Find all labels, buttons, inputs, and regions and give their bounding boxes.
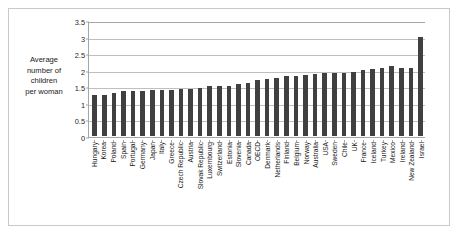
x-label-slot: Luxembourg bbox=[205, 140, 215, 220]
bar-slot bbox=[282, 22, 292, 136]
y-tick-mark bbox=[86, 88, 89, 89]
bar-slot bbox=[339, 22, 349, 136]
x-label-slot: Belgium bbox=[291, 140, 301, 220]
x-label-slot: Iceland bbox=[368, 140, 378, 220]
bar bbox=[274, 78, 279, 136]
x-label-slot: Finland bbox=[282, 140, 292, 220]
x-tick-label: Luxembourg bbox=[206, 142, 213, 179]
x-label-slot: Turkey bbox=[378, 140, 388, 220]
bar-slot bbox=[349, 22, 359, 136]
x-label-slot: Austria bbox=[185, 140, 195, 220]
bar-slot bbox=[358, 22, 368, 136]
x-label-slot: Slovenia bbox=[233, 140, 243, 220]
bar-slot bbox=[119, 22, 129, 136]
bar-slot bbox=[329, 22, 339, 136]
bar bbox=[265, 79, 270, 136]
y-tick-label: 1.5 bbox=[75, 84, 85, 93]
x-axis-labels: HungaryKoreaPolandSpainPortugalGermanyJa… bbox=[89, 140, 426, 220]
y-axis-title-line-2: number of bbox=[13, 66, 75, 77]
y-tick-mark bbox=[86, 22, 89, 23]
bar bbox=[131, 91, 136, 136]
x-label-slot: Czech Republic bbox=[176, 140, 186, 220]
bar bbox=[112, 93, 117, 136]
x-label-slot: Switzerland bbox=[214, 140, 224, 220]
bar bbox=[102, 95, 107, 136]
y-tick-label: 0.5 bbox=[75, 117, 85, 126]
x-tick-label: Denmark bbox=[264, 142, 271, 169]
bar bbox=[217, 86, 222, 136]
x-tick-label: Germany bbox=[138, 142, 145, 169]
bar-slot bbox=[195, 22, 205, 136]
y-tick-mark bbox=[86, 104, 89, 105]
x-tick-label: Spain bbox=[119, 142, 126, 159]
x-label-slot: Italy bbox=[156, 140, 166, 220]
bar-slot bbox=[205, 22, 215, 136]
bar bbox=[284, 76, 289, 136]
bar bbox=[303, 75, 308, 136]
x-label-slot: Denmark bbox=[262, 140, 272, 220]
x-tick-label: Switzerland bbox=[215, 142, 222, 176]
bar bbox=[160, 90, 165, 136]
bar bbox=[351, 72, 356, 136]
y-axis-title: Average number of children per woman bbox=[13, 55, 75, 97]
x-tick-label: Greece bbox=[167, 142, 174, 164]
x-tick-label: Hungary bbox=[90, 142, 97, 167]
x-label-slot: Poland bbox=[108, 140, 118, 220]
bar-slot bbox=[224, 22, 234, 136]
x-tick-label: New Zealand bbox=[408, 142, 415, 181]
bar-slot bbox=[320, 22, 330, 136]
bar-slot bbox=[90, 22, 100, 136]
x-label-slot: Spain bbox=[118, 140, 128, 220]
bar-slot bbox=[215, 22, 225, 136]
bar bbox=[361, 70, 366, 136]
bar-slot bbox=[186, 22, 196, 136]
x-tick-label: OECD bbox=[254, 142, 261, 161]
x-tick-label: Netherlands bbox=[273, 142, 280, 178]
bar bbox=[236, 84, 241, 136]
x-label-slot: Korea bbox=[99, 140, 109, 220]
bar-slot bbox=[387, 22, 397, 136]
bar-slot bbox=[243, 22, 253, 136]
x-label-slot: Israel bbox=[416, 140, 426, 220]
bar-slot bbox=[377, 22, 387, 136]
bar-slot bbox=[310, 22, 320, 136]
x-label-slot: Greece bbox=[166, 140, 176, 220]
x-label-slot: UK bbox=[349, 140, 359, 220]
y-tick-mark bbox=[86, 121, 89, 122]
y-tick-label: 2.5 bbox=[75, 51, 85, 60]
bar-slot bbox=[253, 22, 263, 136]
bar-series bbox=[90, 22, 425, 136]
bar-slot bbox=[128, 22, 138, 136]
bar bbox=[150, 90, 155, 136]
x-tick-label: Sweden bbox=[331, 142, 338, 166]
bar bbox=[198, 88, 203, 136]
x-tick-label: Czech Republic bbox=[177, 142, 184, 188]
bar-slot bbox=[291, 22, 301, 136]
bar bbox=[179, 89, 184, 136]
x-tick-label: Portugal bbox=[129, 142, 136, 167]
bar-slot bbox=[138, 22, 148, 136]
x-label-slot: Slovak Republic bbox=[195, 140, 205, 220]
x-label-slot: OECD bbox=[253, 140, 263, 220]
x-label-slot: Germany bbox=[137, 140, 147, 220]
chart-figure: Average number of children per woman 00.… bbox=[8, 8, 450, 226]
y-axis-title-line-3: children bbox=[13, 76, 75, 87]
bar bbox=[370, 69, 375, 136]
y-tick-mark bbox=[86, 71, 89, 72]
bar-slot bbox=[262, 22, 272, 136]
bar bbox=[418, 37, 423, 136]
y-tick-mark bbox=[86, 38, 89, 39]
x-label-slot: Hungary bbox=[89, 140, 99, 220]
x-tick-label: Israel bbox=[418, 142, 425, 158]
x-label-slot: Norway bbox=[301, 140, 311, 220]
x-tick-label: Poland bbox=[110, 142, 117, 163]
x-tick-label: Estonia bbox=[225, 142, 232, 164]
x-tick-label: Slovak Republic bbox=[196, 142, 203, 189]
x-tick-label: Chile bbox=[341, 142, 348, 157]
bar bbox=[227, 86, 232, 136]
bar-slot bbox=[416, 22, 426, 136]
y-axis-title-line-4: per woman bbox=[13, 87, 75, 98]
bar bbox=[389, 66, 394, 136]
y-tick-label: 0 bbox=[81, 134, 85, 143]
bar bbox=[140, 91, 145, 136]
